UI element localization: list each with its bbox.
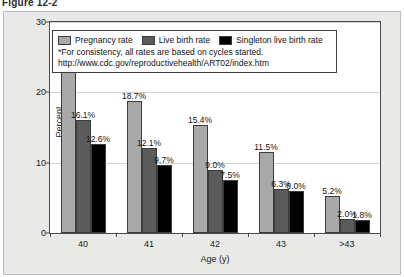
legend-footnote: *For consistency, all rates are based on… [58,47,331,58]
legend-swatch-icon [58,36,71,45]
bar-value-label: 18.7% [122,91,146,101]
bar-value-label: 15.4% [188,115,212,125]
bar-value-label: 6.0% [286,181,305,191]
legend-entries: Pregnancy rateLive birth rateSingleton l… [58,35,331,45]
x-tick-mark [116,233,117,237]
legend-swatch-icon [142,36,155,45]
bar-value-label: 11.5% [254,142,277,152]
bar: 12.6% [91,144,106,233]
bar: 15.4% [193,125,208,233]
gridline [50,92,380,93]
x-tick-label: >43 [339,239,354,249]
bar-value-label: 5.2% [322,186,341,196]
chart-canvas: 0102030 Percent 23.0%16.1%12.6%18.7%12.1… [3,11,401,275]
figure-container: Figure 12-2 0102030 Percent 23.0%16.1%12… [0,0,404,277]
bar: 1.8% [355,220,370,233]
bar-value-label: 7.5% [220,170,239,180]
bar-value-label: 9.0% [205,160,224,170]
y-tick-label: 0 [14,228,46,238]
bar: 7.5% [223,180,238,233]
x-axis-label: Age (y) [50,254,380,264]
legend-entry: Singleton live birth rate [219,35,322,45]
bar: 6.0% [289,191,304,233]
bar-value-label: 16.1% [71,110,95,120]
legend-entry-label: Pregnancy rate [75,35,133,45]
y-tick-label: 20 [14,87,46,97]
figure-caption: Figure 12-2 [2,0,58,8]
legend-source-url: http://www.cdc.gov/reproductivehealth/AR… [58,58,331,69]
legend-entry-label: Live birth rate [159,35,211,45]
y-tick-label: 30 [14,17,46,27]
bar: 11.5% [259,152,274,233]
x-tick-label: 43 [276,239,286,249]
legend: Pregnancy rateLive birth rateSingleton l… [52,30,337,73]
bar: 9.7% [157,165,172,233]
legend-entry: Live birth rate [142,35,211,45]
legend-swatch-icon [219,36,232,45]
y-tick-mark [46,22,50,23]
legend-entry: Pregnancy rate [58,35,133,45]
bar-value-label: 1.8% [352,210,371,220]
x-tick-label: 42 [210,239,220,249]
bar-value-label: 12.1% [137,138,161,148]
bar: 2.0% [340,219,355,233]
x-tick-mark [50,233,51,237]
bar: 23.0% [61,71,76,233]
bar-value-label: 12.6% [86,134,110,144]
y-tick-mark [46,162,50,163]
bar-value-label: 9.7% [154,155,173,165]
legend-entry-label: Singleton live birth rate [236,35,322,45]
x-tick-mark [182,233,183,237]
x-tick-mark [314,233,315,237]
x-tick-label: 40 [78,239,88,249]
bar: 18.7% [127,101,142,233]
bar: 6.3% [274,189,289,233]
x-tick-mark [380,233,381,237]
gridline [50,22,380,23]
y-tick-mark [46,92,50,93]
y-tick-label: 10 [14,158,46,168]
x-tick-mark [248,233,249,237]
x-tick-label: 41 [144,239,154,249]
